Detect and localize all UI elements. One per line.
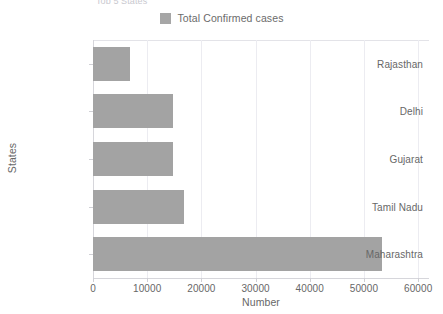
bar xyxy=(93,142,173,176)
legend-swatch-total-confirmed-cases xyxy=(160,13,171,24)
x-tick-label: 50000 xyxy=(350,283,378,294)
chart-title: Top 5 States xyxy=(96,0,356,4)
y-tick-label-maharashtra: Maharashtra xyxy=(366,249,423,260)
x-tick-label: 60000 xyxy=(404,283,432,294)
plot-top-border xyxy=(93,40,429,41)
x-tick-label: 10000 xyxy=(133,283,161,294)
bar xyxy=(93,94,173,128)
y-tick-label-rajasthan: Rajasthan xyxy=(377,58,423,69)
chart-legend: Total Confirmed cases xyxy=(0,12,443,24)
x-tick-mark xyxy=(256,278,257,282)
x-tick-label: 30000 xyxy=(241,283,269,294)
x-tick-mark xyxy=(201,278,202,282)
y-tick-label-tamil-nadu: Tamil Nadu xyxy=(372,201,423,212)
bar xyxy=(93,47,130,81)
x-tick-mark xyxy=(364,278,365,282)
y-tick-mark xyxy=(89,254,93,255)
y-tick-mark xyxy=(89,111,93,112)
x-axis-title: Number xyxy=(93,296,429,308)
bar xyxy=(93,190,184,224)
legend-label-total-confirmed-cases: Total Confirmed cases xyxy=(178,12,284,24)
y-tick-label-gujarat: Gujarat xyxy=(390,154,424,165)
x-tick-label: 0 xyxy=(90,283,96,294)
x-tick-label: 20000 xyxy=(187,283,215,294)
y-tick-mark xyxy=(89,64,93,65)
bar xyxy=(93,237,382,271)
x-tick-mark xyxy=(310,278,311,282)
y-tick-label-delhi: Delhi xyxy=(400,106,423,117)
y-axis-title: States xyxy=(6,128,18,188)
bar-chart: Top 5 States Total Confirmed cases 01000… xyxy=(0,0,443,314)
x-tick-label: 40000 xyxy=(296,283,324,294)
x-tick-mark xyxy=(93,278,94,282)
y-tick-mark xyxy=(89,207,93,208)
y-tick-mark xyxy=(89,159,93,160)
x-tick-mark xyxy=(418,278,419,282)
x-axis-line xyxy=(93,278,429,279)
plot-area: 0100002000030000400005000060000Maharasht… xyxy=(93,40,429,278)
x-tick-mark xyxy=(147,278,148,282)
